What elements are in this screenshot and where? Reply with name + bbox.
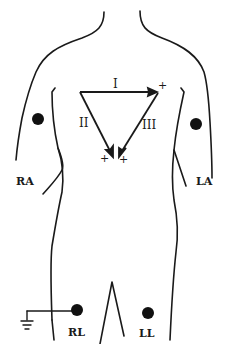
lead-I-plus-sign: + [158, 80, 167, 91]
electrode-LL-label: LL [139, 328, 154, 339]
electrode-RA-label: RA [16, 176, 34, 187]
electrode-LA [190, 118, 202, 130]
right-arm-inner-outline [43, 88, 63, 194]
left-arm-inner-outline [174, 88, 186, 186]
right-leg-outline [52, 320, 54, 340]
left-neck-shoulder-outline [16, 12, 104, 160]
left-torso-outline [170, 150, 177, 340]
einthoven-diagram: I II III + + + RA LA RL LL [0, 0, 229, 344]
body-outline-and-leads [0, 0, 229, 344]
lead-III-plus-sign: + [119, 154, 128, 165]
right-torso-outline [51, 148, 63, 320]
electrode-RL-label: RL [68, 327, 85, 338]
electrode-RA [32, 113, 44, 125]
electrode-LA-label: LA [196, 176, 212, 187]
lead-I-label: I [113, 78, 118, 90]
crotch-outline [100, 282, 124, 344]
electrode-LL [142, 307, 154, 319]
lead-II-label: II [79, 117, 88, 129]
ground-icon [21, 321, 33, 329]
lead-III-label: III [142, 119, 156, 131]
electrode-RL [71, 304, 83, 316]
lead-II-plus-sign: + [100, 153, 109, 164]
